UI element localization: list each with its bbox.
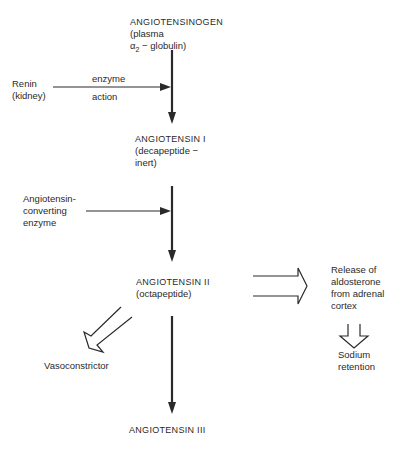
renin-label: Renin — [12, 78, 37, 90]
angiotensin1-desc-line2: (decapeptide − — [135, 145, 198, 157]
pathway-arrows — [0, 0, 405, 450]
angiotensin2-label: ANGIOTENSIN II — [136, 276, 210, 288]
ace-label-line1: Angiotensin- — [23, 193, 76, 205]
hollow-arrow-to-aldosterone — [253, 268, 307, 304]
aldosterone-line3: from adrenal — [331, 288, 384, 300]
angiotensinogen-desc-line2: (plasma — [130, 28, 164, 40]
enzyme-label: enzyme — [92, 73, 125, 85]
ace-label-line2: converting — [23, 205, 67, 217]
hollow-arrow-to-vasoconstrictor — [84, 307, 132, 352]
sodium-line1: Sodium — [338, 349, 370, 361]
arrow-angiotensin1-to-angiotensin2 — [168, 186, 176, 262]
renin-source: (kidney) — [12, 90, 46, 102]
sodium-line2: retention — [338, 361, 375, 373]
vasoconstrictor-label: Vasoconstrictor — [44, 360, 109, 372]
action-label: action — [92, 91, 117, 103]
angiotensin2-desc: (octapeptide) — [136, 288, 191, 300]
angiotensinogen-desc-line3: α2 − globulin) — [130, 40, 186, 56]
angiotensinogen-label: ANGIOTENSINOGEN — [130, 16, 223, 28]
arrow-ace — [86, 207, 171, 215]
globulin-text: − globulin) — [139, 40, 186, 51]
angiotensin1-label: ANGIOTENSIN I — [135, 133, 206, 145]
angiotensin3-label: ANGIOTENSIN III — [129, 424, 206, 436]
angiotensin1-desc-line3: inert) — [135, 157, 157, 169]
aldosterone-line2: aldosterone — [331, 276, 381, 288]
aldosterone-line4: cortex — [331, 300, 357, 312]
aldosterone-line1: Release of — [331, 264, 376, 276]
ace-label-line3: enzyme — [23, 217, 56, 229]
arrow-angiotensin2-to-angiotensin3 — [168, 316, 176, 414]
hollow-arrow-to-sodium — [340, 324, 368, 348]
